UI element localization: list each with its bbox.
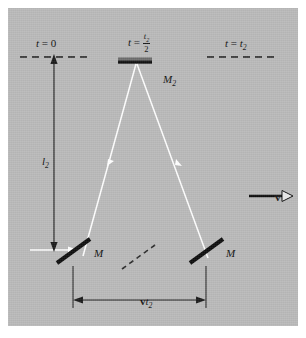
light-ray-downward bbox=[137, 64, 208, 258]
label-velocity: v bbox=[275, 192, 281, 203]
label-displacement-sub: 2 bbox=[149, 301, 153, 310]
figure-root: t = 0 t = t22 t = t2 l2 M2 M M v vt2 bbox=[0, 0, 306, 338]
label-velocity-var: v bbox=[275, 191, 281, 203]
label-mirror-top-var: M bbox=[163, 73, 172, 85]
mirror-top-M2 bbox=[118, 57, 152, 63]
velocity-arrow bbox=[249, 191, 293, 202]
label-time-end: t = t2 bbox=[225, 38, 247, 52]
label-time-start-eq: = bbox=[39, 37, 51, 49]
mirror-ghost-dashed bbox=[122, 245, 155, 269]
label-mirror-left: M bbox=[94, 248, 103, 259]
ray-arrowhead-down bbox=[175, 159, 182, 166]
arm-arrowhead-top bbox=[50, 54, 57, 64]
label-time-mid-eq: = bbox=[131, 36, 143, 48]
label-time-start-value: 0 bbox=[51, 37, 57, 49]
label-time-mid-fraction: t22 bbox=[143, 32, 150, 53]
arm-length-arrow bbox=[50, 54, 57, 252]
dimension-arrowhead-left bbox=[73, 297, 83, 304]
label-time-end-eq: = bbox=[228, 37, 240, 49]
label-time-start: t = 0 bbox=[36, 38, 56, 49]
label-mirror-right: M bbox=[226, 248, 235, 259]
diagram-canvas bbox=[8, 8, 298, 326]
ray-arrowhead-up bbox=[107, 159, 114, 166]
label-mirror-top: M2 bbox=[163, 74, 176, 88]
dimension-arrowhead-right bbox=[196, 297, 206, 304]
light-ray-path bbox=[83, 64, 208, 258]
label-mirror-top-sub: 2 bbox=[172, 79, 176, 88]
mirror-right-M bbox=[190, 239, 223, 263]
label-arm-length-sub: 2 bbox=[45, 161, 49, 170]
fraction-numerator-sub: 2 bbox=[146, 37, 149, 43]
label-time-mid: t = t22 bbox=[128, 33, 150, 54]
label-displacement: vt2 bbox=[140, 296, 152, 310]
label-arm-length: l2 bbox=[42, 156, 49, 170]
label-time-end-sub: 2 bbox=[243, 43, 247, 52]
figure-panel: t = 0 t = t22 t = t2 l2 M2 M M v vt2 bbox=[8, 8, 298, 326]
fraction-denominator: 2 bbox=[143, 45, 150, 54]
fraction-numerator: t2 bbox=[143, 32, 150, 43]
